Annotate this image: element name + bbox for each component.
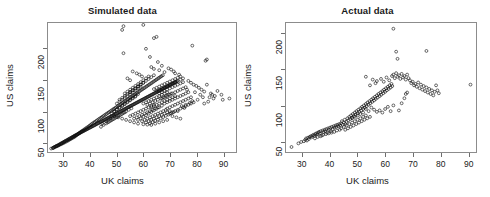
y-tick xyxy=(281,142,285,143)
x-tick xyxy=(197,153,198,157)
y-tick-label: 150 xyxy=(274,76,284,90)
x-tick xyxy=(90,153,91,157)
scatter-points-actual xyxy=(286,23,476,152)
x-tick-label: 90 xyxy=(219,159,228,169)
plot-area-actual xyxy=(285,22,477,153)
y-axis-title-actual: US claims xyxy=(242,54,253,118)
y-tick xyxy=(43,112,47,113)
x-tick xyxy=(302,153,303,157)
y-tick-label: 50 xyxy=(36,148,46,157)
x-tick xyxy=(143,153,144,157)
plot-area-simulated xyxy=(47,22,237,153)
x-tick-label: 40 xyxy=(85,159,94,169)
x-tick xyxy=(224,153,225,157)
y-tick xyxy=(281,69,285,70)
x-tick-label: 70 xyxy=(408,159,417,169)
x-tick xyxy=(330,153,331,157)
scatter-points-simulated xyxy=(48,23,236,152)
x-tick-label: 50 xyxy=(112,159,121,169)
y-tick xyxy=(281,33,285,34)
x-axis-title-simulated: UK claims xyxy=(0,175,245,186)
x-tick-label: 60 xyxy=(139,159,148,169)
x-tick-label: 30 xyxy=(58,159,67,169)
y-tick xyxy=(43,143,47,144)
y-tick-label: 150 xyxy=(36,87,46,101)
y-tick xyxy=(281,106,285,107)
figure-container: Simulated data 3040506070809050100150200… xyxy=(0,0,490,197)
x-tick xyxy=(441,153,442,157)
y-tick-label: 50 xyxy=(274,147,284,156)
x-tick-label: 40 xyxy=(325,159,334,169)
x-tick xyxy=(385,153,386,157)
x-tick-label: 80 xyxy=(192,159,201,169)
x-tick-label: 50 xyxy=(353,159,362,169)
y-tick xyxy=(43,48,47,49)
y-tick xyxy=(43,80,47,81)
panel-actual-data: Actual data 3040506070809050100150200 UK… xyxy=(245,0,490,197)
x-tick xyxy=(117,153,118,157)
y-axis-title-simulated: US claims xyxy=(4,54,15,118)
x-tick xyxy=(357,153,358,157)
panel-simulated-data: Simulated data 3040506070809050100150200… xyxy=(0,0,245,197)
x-tick xyxy=(469,153,470,157)
x-axis-title-actual: UK claims xyxy=(245,175,490,186)
y-tick-label: 200 xyxy=(36,55,46,69)
x-tick xyxy=(63,153,64,157)
y-tick-label: 100 xyxy=(274,113,284,127)
x-tick-label: 80 xyxy=(436,159,445,169)
y-tick-label: 100 xyxy=(36,119,46,133)
x-tick-label: 30 xyxy=(297,159,306,169)
panel-title-simulated: Simulated data xyxy=(0,5,245,16)
x-tick-label: 70 xyxy=(165,159,174,169)
x-tick xyxy=(170,153,171,157)
x-tick-label: 90 xyxy=(464,159,473,169)
panel-title-actual: Actual data xyxy=(245,5,490,16)
x-tick-label: 60 xyxy=(380,159,389,169)
y-tick-label: 200 xyxy=(274,40,284,54)
x-tick xyxy=(413,153,414,157)
